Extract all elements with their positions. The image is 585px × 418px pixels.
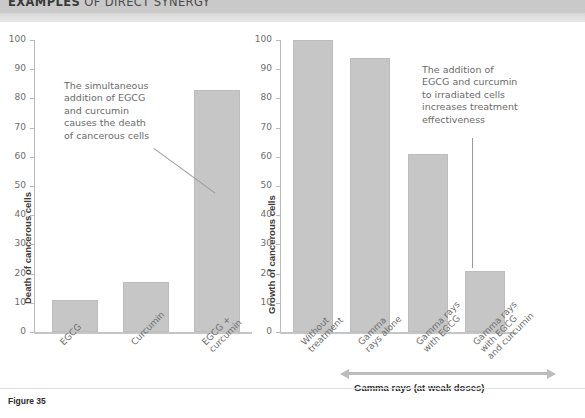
gamma-rays-range-annotation: Gamma rays (at weak doses)	[340, 368, 570, 400]
y-axis-tick	[276, 40, 280, 41]
y-axis-tick-label: 50	[0, 180, 26, 190]
y-axis-tick	[30, 186, 34, 187]
y-axis-tick	[30, 40, 34, 41]
section-header-band: EXAMPLES OF DIRECT SYNERGY	[0, 0, 585, 22]
y-axis-tick-label: 90	[240, 63, 272, 73]
y-axis-tick	[276, 274, 280, 275]
bar	[293, 40, 333, 332]
y-axis-tick	[276, 186, 280, 187]
y-axis-tick	[30, 128, 34, 129]
arrow-head-right-icon	[547, 369, 556, 379]
figure-caption: Figure 35	[8, 396, 46, 406]
y-axis-tick-label: 90	[0, 63, 26, 73]
y-axis-tick-label: 0	[240, 326, 272, 336]
y-axis-tick-label: 10	[240, 297, 272, 307]
y-axis-tick-label: 70	[240, 122, 272, 132]
figure-card: Death of cancerous cells 010203040506070…	[0, 22, 585, 388]
chart-annotation-text: The simultaneous addition of EGCG and cu…	[64, 80, 184, 142]
y-axis-tick	[30, 157, 34, 158]
y-axis-tick-label: 30	[0, 238, 26, 248]
section-header-title: EXAMPLES OF DIRECT SYNERGY	[8, 0, 210, 9]
y-axis-tick-label: 20	[0, 268, 26, 278]
y-axis-tick-label: 50	[240, 180, 272, 190]
card-bottom-divider	[0, 388, 585, 389]
y-axis-tick-label: 30	[240, 238, 272, 248]
chart-left-death-of-cancerous-cells: Death of cancerous cells 010203040506070…	[0, 32, 258, 372]
y-axis-tick	[276, 215, 280, 216]
y-axis-tick	[30, 303, 34, 304]
bar	[408, 154, 448, 332]
y-axis-line	[34, 40, 35, 332]
arrow-line	[348, 372, 548, 375]
section-header-title-bold: EXAMPLES	[8, 0, 80, 9]
y-axis-tick-label: 10	[0, 297, 26, 307]
y-axis-tick-label: 70	[0, 122, 26, 132]
y-axis-tick-label: 0	[0, 326, 26, 336]
y-axis-tick-label: 80	[0, 92, 26, 102]
chart-left-plot-area: 0102030405060708090100EGCGCurcuminEGCG +…	[34, 40, 246, 332]
chart-annotation-text: The addition of EGCG and curcumin to irr…	[422, 64, 542, 126]
y-axis-tick-label: 60	[0, 151, 26, 161]
bar	[350, 58, 390, 332]
y-axis-line	[280, 40, 281, 332]
y-axis-tick	[276, 244, 280, 245]
y-axis-tick-label: 40	[240, 209, 272, 219]
y-axis-tick	[276, 98, 280, 99]
y-axis-tick-label: 60	[240, 151, 272, 161]
figure-page: EXAMPLES OF DIRECT SYNERGY Death of canc…	[0, 0, 585, 418]
y-axis-tick	[276, 128, 280, 129]
y-axis-tick-label: 100	[0, 34, 26, 44]
y-axis-tick	[30, 69, 34, 70]
chart-right-growth-of-cancerous-cells: Growth of cancerous cells 01020304050607…	[258, 32, 585, 372]
y-axis-tick	[276, 303, 280, 304]
y-axis-tick	[30, 98, 34, 99]
y-axis-tick	[30, 215, 34, 216]
y-axis-tick-label: 40	[0, 209, 26, 219]
section-header-title-rest: OF DIRECT SYNERGY	[80, 0, 210, 9]
y-axis-tick	[276, 69, 280, 70]
y-axis-tick	[30, 244, 34, 245]
y-axis-tick	[276, 332, 280, 333]
annotation-leader-line	[472, 138, 473, 268]
y-axis-tick-label: 80	[240, 92, 272, 102]
y-axis-tick	[30, 332, 34, 333]
y-axis-tick	[30, 274, 34, 275]
y-axis-tick	[276, 157, 280, 158]
bar	[194, 90, 240, 332]
y-axis-tick-label: 20	[240, 268, 272, 278]
chart-right-plot-area: 0102030405060708090100Without treatmentG…	[280, 40, 510, 332]
y-axis-tick-label: 100	[240, 34, 272, 44]
